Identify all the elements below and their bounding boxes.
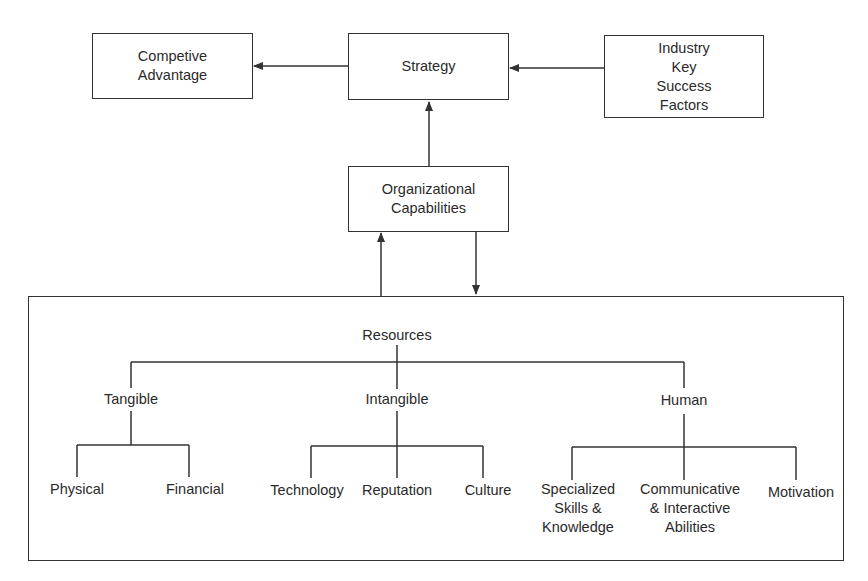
communicative-abilities-label: Communicative & Interactive Abilities (638, 480, 742, 537)
financial-label: Financial (164, 480, 226, 499)
competitive-advantage-box: Competive Advantage (92, 33, 253, 99)
culture-label: Culture (463, 481, 514, 500)
industry-key-success-factors-box: Industry Key Success Factors (604, 35, 764, 118)
specialized-skills-label: Specialized Skills & Knowledge (539, 480, 617, 537)
tangible-label: Tangible (102, 390, 160, 409)
reputation-label: Reputation (360, 481, 434, 500)
resources-label: Resources (360, 326, 433, 345)
physical-label: Physical (48, 480, 106, 499)
technology-label: Technology (268, 481, 345, 500)
organizational-capabilities-box: Organizational Capabilities (348, 166, 509, 232)
strategy-box: Strategy (348, 33, 509, 100)
human-label: Human (659, 391, 710, 410)
intangible-label: Intangible (364, 390, 431, 409)
motivation-label: Motivation (766, 483, 836, 502)
